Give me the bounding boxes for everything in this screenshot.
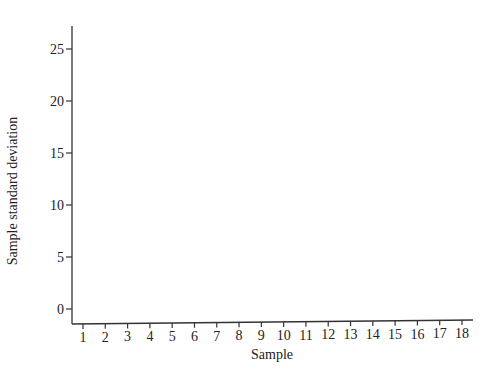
x-tick-label: 4 xyxy=(146,329,153,344)
y-axis: 0510152025 xyxy=(50,26,72,324)
x-tick-label: 17 xyxy=(433,326,447,341)
x-tick-label: 5 xyxy=(169,329,176,344)
x-tick-label: 8 xyxy=(236,328,243,343)
y-tick-label: 5 xyxy=(57,250,64,265)
x-tick-label: 1 xyxy=(80,330,87,345)
x-tick-label: 9 xyxy=(258,328,265,343)
x-tick-label: 18 xyxy=(455,326,469,341)
x-tick-label: 7 xyxy=(213,329,220,344)
x-tick-label: 14 xyxy=(366,327,380,342)
x-tick-label: 3 xyxy=(124,329,131,344)
x-tick-label: 15 xyxy=(388,327,402,342)
x-tick-label: 16 xyxy=(410,327,424,342)
x-axis-line xyxy=(72,320,473,324)
x-axis-label: Sample xyxy=(251,347,293,362)
y-tick-label: 25 xyxy=(50,42,64,57)
x-tick-label: 2 xyxy=(102,330,109,345)
y-tick-label: 10 xyxy=(50,198,64,213)
y-tick-label: 20 xyxy=(50,94,64,109)
x-tick-label: 6 xyxy=(191,329,198,344)
y-tick-label: 15 xyxy=(50,146,64,161)
x-tick-label: 13 xyxy=(344,327,358,342)
x-tick-label: 10 xyxy=(277,328,291,343)
x-tick-label: 11 xyxy=(299,328,312,343)
chart: 0510152025 123456789101112131415161718 S… xyxy=(0,0,498,388)
x-tick-label: 12 xyxy=(321,327,335,342)
x-axis: 123456789101112131415161718 xyxy=(72,320,473,345)
y-axis-label: Sample standard deviation xyxy=(5,117,20,266)
y-tick-label: 0 xyxy=(57,302,64,317)
